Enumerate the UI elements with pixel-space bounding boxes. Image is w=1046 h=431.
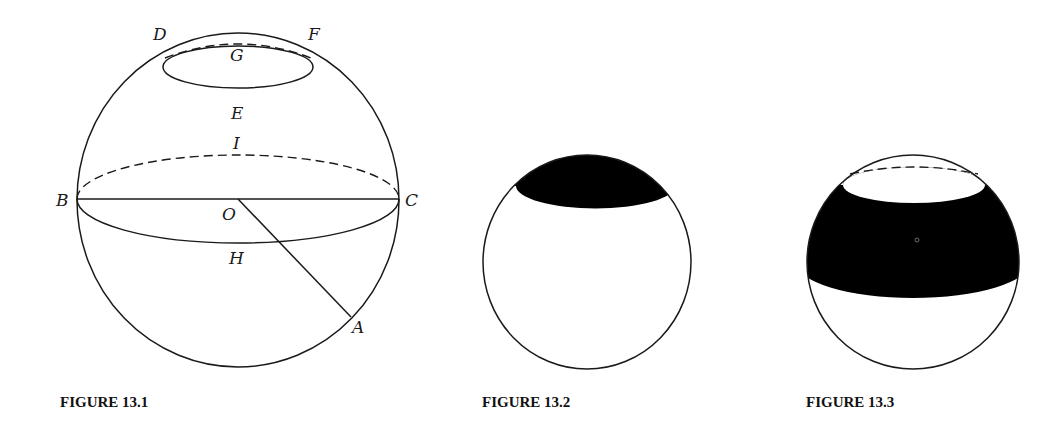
label-e: E (230, 103, 244, 123)
label-f: F (307, 24, 321, 44)
label-i: I (232, 133, 240, 153)
figure-13-2: FIGURE 13.2 (482, 150, 691, 410)
caption-figure-13-1: FIGURE 13.1 (60, 394, 148, 410)
radius-oa (238, 199, 351, 317)
great-circle-front (77, 199, 399, 243)
figures-canvas: D F G E I B C O H A FIGURE 13.1 FIGURE 1… (0, 0, 1046, 431)
label-g: G (230, 45, 244, 65)
label-d: D (152, 24, 167, 44)
great-circle-back-dashed (77, 155, 399, 199)
caption-figure-13-2: FIGURE 13.2 (482, 394, 570, 410)
spherical-zone-shaded (796, 150, 1030, 298)
label-o: O (222, 204, 236, 224)
label-a: A (350, 317, 364, 337)
label-h: H (228, 248, 245, 268)
spherical-cap-shaded (500, 150, 675, 208)
caption-figure-13-3: FIGURE 13.3 (806, 394, 894, 410)
label-c: C (405, 190, 418, 210)
figure-13-3: FIGURE 13.3 (796, 150, 1030, 410)
figure-13-1: D F G E I B C O H A FIGURE 13.1 (55, 24, 418, 410)
label-b: B (55, 190, 69, 210)
